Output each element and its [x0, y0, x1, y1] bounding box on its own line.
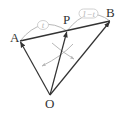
point-label-b: B [106, 5, 115, 20]
vector-diagram: t 1−t A P B O [0, 0, 121, 121]
ratio-label-1-minus-t: 1−t [82, 9, 96, 19]
point-label-a: A [10, 30, 20, 45]
point-label-p: P [63, 12, 70, 27]
point-label-o: O [45, 96, 54, 111]
vector-oa [21, 42, 51, 95]
ratio-bubble-t: t [38, 20, 49, 30]
ratio-bubble-1-minus-t: 1−t [79, 9, 98, 19]
